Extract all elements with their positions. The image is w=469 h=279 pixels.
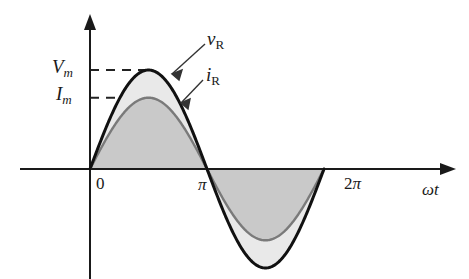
x-axis-arrowhead xyxy=(440,163,456,175)
current-curve-label: iR xyxy=(206,64,220,86)
x-axis-title: ωt xyxy=(422,180,439,200)
x-tick-label-pi: π xyxy=(198,175,207,195)
current-label-leader-line xyxy=(181,80,203,103)
x-tick-label-0: 0 xyxy=(96,174,105,194)
waveform-plot-svg xyxy=(0,0,469,279)
voltage-label-leader-line xyxy=(172,44,205,74)
x-tick-label-2pi: 2π xyxy=(344,174,361,194)
voltage-label-arrowhead xyxy=(172,70,182,80)
im-axis-label: Im xyxy=(56,83,72,105)
vm-axis-label: Vm xyxy=(52,56,73,78)
y-axis-arrowhead xyxy=(84,14,96,30)
voltage-curve-label: vR xyxy=(207,28,224,50)
waveform-figure: Vm Im vR iR 0 π 2π ωt xyxy=(0,0,469,279)
